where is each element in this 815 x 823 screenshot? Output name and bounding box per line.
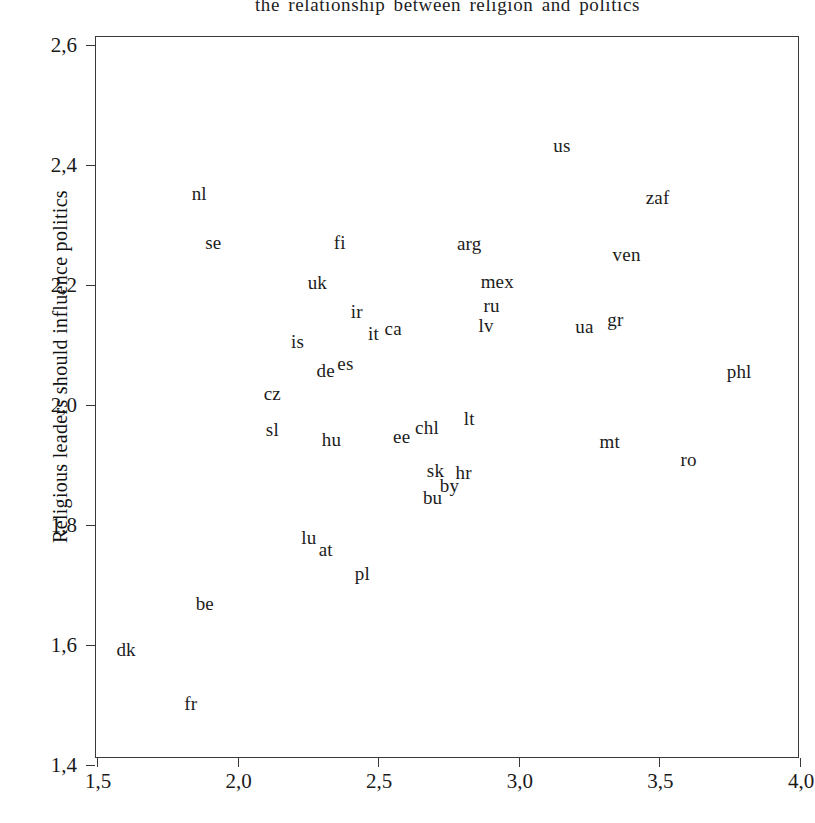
y-axis-tick-label: 2,6 [51,33,86,58]
y-axis-tick-label: 2,2 [51,273,86,298]
data-point-label: de [317,361,335,380]
data-point-label: dk [116,640,135,659]
x-axis-tick-label: 4,0 [788,769,814,794]
data-point-label: by [440,476,459,495]
y-axis-tick: 1,6 [86,645,95,646]
data-point-label: se [205,233,221,252]
y-axis-tick-label: 2,4 [51,153,86,178]
x-axis-tick: 1,5 [97,758,98,767]
y-axis-tick: 2,2 [86,285,95,286]
data-point-label: lt [464,409,475,428]
data-point-label: ca [385,319,402,338]
data-point-label: us [553,136,570,155]
x-axis-tick-label: 1,5 [85,769,111,794]
data-point-label: nl [192,184,207,203]
data-point-label: lu [301,527,316,546]
y-axis-label: Religious leaders should influence polit… [49,57,72,677]
data-point-label: cz [264,383,281,402]
data-point-label: mt [600,431,620,450]
data-point-label: ro [680,449,696,468]
scatter-plot-figure: the relationship between religion and po… [0,0,815,823]
x-axis-tick: 3,5 [659,758,660,767]
y-axis-tick-label: 2,0 [51,393,86,418]
data-point-label: be [196,593,214,612]
data-point-label: at [319,539,333,558]
x-axis-tick: 2,0 [238,758,239,767]
data-point-label: ir [351,302,363,321]
data-point-label: gr [607,310,623,329]
x-axis-tick-label: 3,0 [507,769,533,794]
y-axis-tick-label: 1,6 [51,633,86,658]
data-point-label: lv [478,316,493,335]
data-point-label: sl [266,419,279,438]
data-point-label: ee [393,427,410,446]
data-point-label: hu [322,430,341,449]
data-point-label: bu [423,488,442,507]
data-point-label: it [368,323,379,342]
data-point-label: chl [415,418,439,437]
data-point-label: pl [355,563,370,582]
data-point-label: phl [727,362,752,381]
y-axis-tick: 2,0 [86,405,95,406]
data-point-label: ven [613,245,641,264]
x-axis-tick: 4,0 [800,758,801,767]
y-axis-tick: 2,4 [86,165,95,166]
data-point-label: fi [334,233,346,252]
y-axis-tick: 1,4 [86,765,95,766]
x-axis-tick-label: 3,5 [647,769,673,794]
y-axis-tick: 1,8 [86,525,95,526]
data-point-label: fr [184,694,197,713]
data-point-label: uk [308,272,327,291]
data-point-label: arg [457,233,482,252]
data-point-label: is [291,332,304,351]
plot-area: nlsefiarguszafvenukmexruirlvuagritcaisde… [95,36,799,758]
data-point-label: mex [481,272,514,291]
y-axis-tick: 2,6 [86,45,95,46]
data-point-label: es [337,353,353,372]
x-axis-tick: 2,5 [378,758,379,767]
data-point-label: ru [484,296,500,315]
y-axis-tick-label: 1,4 [51,753,86,778]
data-point-label: ua [575,317,593,336]
chart-title: the relationship between religion and po… [95,0,800,16]
x-axis-tick-label: 2,0 [225,769,251,794]
data-point-label: zaf [646,188,670,207]
x-axis-tick: 3,0 [519,758,520,767]
x-axis-tick-label: 2,5 [366,769,392,794]
y-axis-tick-label: 1,8 [51,513,86,538]
